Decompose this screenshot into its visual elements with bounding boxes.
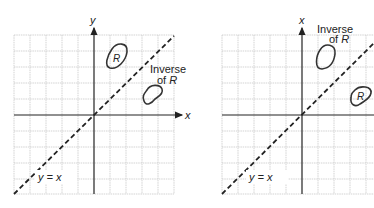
left-inverse-label-line2: of R (157, 74, 177, 86)
left-region-label: R (113, 53, 120, 64)
left-line-label: y = x (37, 171, 62, 183)
right-inverse-label-line2: of R (329, 33, 349, 45)
left-y-axis-label: y (89, 14, 97, 26)
diagram-canvas: y x R Inverse of R y = x x R Inverse of … (0, 0, 374, 208)
right-line-label: y = x (248, 171, 273, 183)
left-inverse-region (143, 85, 162, 104)
right-graph: x R Inverse of R y = x (222, 14, 374, 194)
left-graph: y x R Inverse of R y = x (14, 14, 191, 194)
left-x-axis-label: x (184, 109, 191, 121)
right-inverse-region (317, 45, 336, 69)
right-y-axis-label: x (298, 14, 305, 26)
right-region-label: R (357, 91, 364, 102)
right-line-y-equals-x (222, 43, 374, 194)
